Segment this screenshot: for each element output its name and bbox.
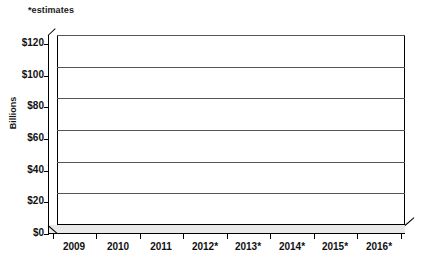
x-tick-mark bbox=[53, 234, 54, 239]
x-tick-mark bbox=[401, 234, 402, 239]
x-tick-label: 2016* bbox=[353, 241, 405, 252]
bar-chart: *estimates Billions $0$20$40$60$80$100$1… bbox=[0, 0, 426, 261]
x-tick-mark bbox=[227, 234, 228, 239]
x-tick-mark bbox=[357, 234, 358, 239]
x-tick-mark bbox=[140, 234, 141, 239]
bars-layer bbox=[0, 0, 426, 261]
x-tick-mark bbox=[96, 234, 97, 239]
x-tick-mark bbox=[183, 234, 184, 239]
x-tick-mark bbox=[314, 234, 315, 239]
x-tick-mark bbox=[270, 234, 271, 239]
